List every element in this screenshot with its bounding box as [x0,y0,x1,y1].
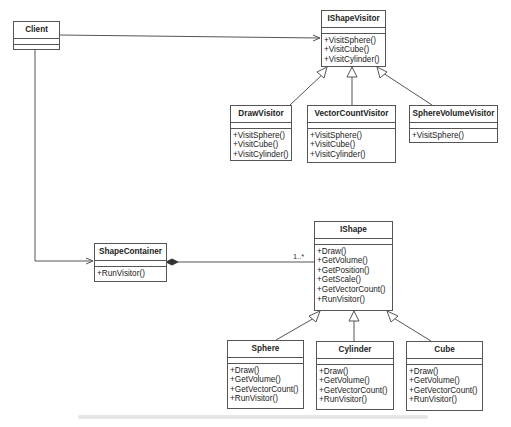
class-ishape[interactable]: IShape +Draw() +GetVolume() +GetPosition… [314,221,393,311]
operations-compartment: +VisitSphere() +VisitCube() +VisitCylind… [231,129,291,162]
operation: +GetPosition() [317,266,390,276]
operation: +Draw() [230,366,301,376]
operation: +RunVisitor() [409,395,480,405]
operation: +RunVisitor() [317,295,390,305]
operation: +RunVisitor() [97,269,164,279]
class-name: Cylinder [317,342,393,359]
class-name: ShapeContainer [95,244,166,261]
operation: +Draw() [409,367,480,377]
operations-compartment: +VisitSphere() +VisitCube() +VisitCylind… [308,129,395,162]
operation: +GetScale() [317,275,390,285]
operation: +VisitCube() [310,140,393,150]
faded-caption [78,415,428,419]
generalization-arrow-icon [349,311,359,321]
generalization-arrow-icon [377,67,387,78]
class-name: SphereVolumeVisitor [410,106,497,123]
operation: +VisitCylinder() [233,150,289,160]
class-cylinder[interactable]: Cylinder +Draw() +GetVolume() +GetVector… [316,341,394,410]
multiplicity-label: 1..* [293,252,304,261]
operation: +VisitCube() [233,140,289,150]
operation: +VisitSphere() [412,131,495,141]
operation: +GetVolume() [317,256,390,266]
operation: +VisitCylinder() [310,150,393,160]
operations-compartment: +VisitSphere() [410,129,497,143]
operation: +Draw() [317,247,390,257]
class-name: Sphere [228,341,303,358]
operation: +Draw() [319,367,391,377]
operation: +VisitSphere() [310,131,393,141]
class-shapecontainer[interactable]: ShapeContainer +RunVisitor() [94,243,167,282]
operations-compartment: +RunVisitor() [95,267,166,281]
operation: +GetVectorCount() [319,386,391,396]
class-drawvisitor[interactable]: DrawVisitor +VisitSphere() +VisitCube() … [230,105,292,161]
attributes-compartment [14,39,59,45]
class-vectorcountvisitor[interactable]: VectorCountVisitor +VisitSphere() +Visit… [307,105,396,163]
class-name: DrawVisitor [231,106,291,123]
operation: +GetVectorCount() [230,385,301,395]
class-name: IShapeVisitor [322,11,385,28]
operations-compartment: +Draw() +GetVolume() +GetVectorCount() +… [228,364,303,406]
operations-compartment: +VisitSphere() +VisitCube() +VisitCylind… [322,34,385,67]
operation: +GetVolume() [319,376,391,386]
generalization-arrow-icon [347,67,357,77]
operations-compartment: +Draw() +GetVolume() +GetPosition() +Get… [315,245,392,307]
operations-compartment: +Draw() +GetVolume() +GetVectorCount() +… [317,365,393,407]
class-client[interactable]: Client [13,21,60,50]
operation: +GetVolume() [230,375,301,385]
generalization-arrow-icon [387,311,398,322]
class-sphere[interactable]: Sphere +Draw() +GetVolume() +GetVectorCo… [227,340,304,409]
operation: +RunVisitor() [319,395,391,405]
operations-compartment: +Draw() +GetVolume() +GetVectorCount() +… [407,365,482,407]
operation: +GetVectorCount() [317,285,390,295]
class-spherevolumevisitor[interactable]: SphereVolumeVisitor +VisitSphere() [409,105,498,143]
operation: +GetVolume() [409,376,480,386]
class-name: VectorCountVisitor [308,106,395,123]
class-ishapevisitor[interactable]: IShapeVisitor +VisitSphere() +VisitCube(… [321,10,386,67]
generalization-arrow-icon [317,67,327,78]
operation: +GetVectorCount() [409,386,480,396]
class-name: Client [14,22,59,39]
operation: +VisitSphere() [233,131,289,141]
operation: +VisitSphere() [324,36,383,46]
class-cube[interactable]: Cube +Draw() +GetVolume() +GetVectorCoun… [406,341,483,411]
class-name: IShape [315,222,392,239]
class-name: Cube [407,342,482,359]
operation: +RunVisitor() [230,394,301,404]
composition-diamond-icon [166,259,178,265]
operation: +VisitCube() [324,45,383,55]
operation: +VisitCylinder() [324,55,383,65]
